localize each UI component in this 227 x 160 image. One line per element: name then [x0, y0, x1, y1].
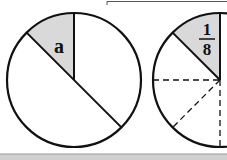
left-sector-label: a	[54, 35, 64, 57]
right-circle: 1 8	[153, 13, 227, 147]
fraction-circles-diagram: a 1 8	[0, 0, 227, 160]
left-circle: a	[7, 13, 141, 147]
right-shaded-sector	[173, 13, 220, 80]
left-shaded-sector	[27, 13, 74, 80]
fraction-numerator: 1	[203, 20, 212, 39]
bottom-band	[0, 154, 227, 160]
top-frame	[107, 2, 227, 6]
fraction-denominator: 8	[203, 40, 212, 59]
